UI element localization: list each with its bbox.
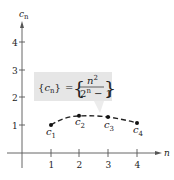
x-axis-label: n xyxy=(164,148,170,158)
x-tick-label: 1 xyxy=(49,160,55,170)
y-tick-label: 2 xyxy=(12,93,18,103)
sequence-chart: 1 2 3 4 1 2 3 4 n cn {cn} = { xyxy=(0,0,174,180)
dashed-curve xyxy=(51,116,137,125)
y-tick-label: 1 xyxy=(12,121,18,131)
y-tick-label: 3 xyxy=(12,66,18,76)
x-ticks: 1 2 3 4 xyxy=(49,149,141,170)
x-tick-label: 2 xyxy=(77,160,83,170)
formula-callout: {cn} = { n2 2n − 1 } xyxy=(34,72,116,113)
x-axis-arrow-icon xyxy=(155,151,162,155)
callout-pointer xyxy=(94,101,104,113)
point-label-c3: c3 xyxy=(104,119,114,133)
point-label-c1: c1 xyxy=(46,126,56,140)
x-tick-label: 4 xyxy=(135,160,141,170)
formula-brace-close: } xyxy=(104,77,116,99)
y-tick-label: 4 xyxy=(12,38,18,48)
point-label-c2: c2 xyxy=(75,116,85,130)
y-axis-label: cn xyxy=(19,9,29,21)
point-label-c4: c4 xyxy=(133,124,144,138)
x-tick-label: 3 xyxy=(106,160,112,170)
y-axis-arrow-icon xyxy=(20,21,24,28)
y-ticks: 1 2 3 4 xyxy=(12,38,25,131)
